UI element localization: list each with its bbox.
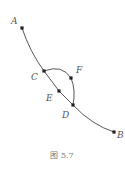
label-D: D (61, 110, 69, 120)
geometry-figure: ACFEDB 图 5.7 (0, 0, 125, 171)
point-C (42, 69, 45, 72)
point-E (57, 89, 60, 92)
point-B (112, 130, 115, 133)
point-A (20, 26, 23, 29)
label-F: F (75, 65, 83, 75)
label-E: E (45, 93, 53, 103)
label-C: C (31, 72, 38, 82)
label-A: A (10, 16, 18, 26)
figure-caption: 图 5.7 (50, 151, 73, 160)
label-B: B (116, 130, 124, 140)
point-D (71, 103, 74, 106)
point-F (69, 76, 72, 79)
